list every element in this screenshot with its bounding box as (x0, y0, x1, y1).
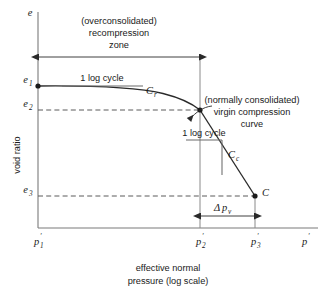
x-tick-p2-sub: 2 (202, 242, 206, 250)
zone-line3: zone (109, 40, 129, 50)
y-axis-symbol: e (28, 7, 33, 18)
y-tick-e2: e 2 (23, 98, 33, 112)
x-tick-p2-base: p (195, 236, 201, 247)
x-tick-p1-base: p (33, 236, 39, 247)
x-tick-p3-base: p (250, 236, 256, 247)
x-tick-labels: p 1 ′ p 2 ′ p 3 ′ p ′ (33, 233, 310, 250)
cr-label-sub: r (154, 91, 157, 99)
delta-pv-sub: v (228, 208, 232, 216)
virgin-curve-caption: (normally consolidated) virgin compressi… (205, 95, 300, 129)
e1-point-marker (35, 83, 40, 88)
cc-slope-construction (186, 140, 222, 175)
cr-log-cycle-label: 1 log cycle (80, 73, 123, 83)
vertical-reference-lines (200, 54, 255, 228)
x-tick-p3-prime: ′ (257, 233, 259, 241)
cc-labels: 1 log cycle C c (182, 128, 240, 163)
virgin-line2: virgin compression (214, 107, 291, 117)
x-tick-p3: p 3 ′ (250, 233, 261, 250)
x-tick-p3-sub: 3 (256, 242, 261, 250)
cr-label-base: C (146, 85, 154, 96)
zone-line1: (overconsolidated) (81, 16, 157, 26)
x-axis-symbol-base: p (301, 236, 307, 247)
point-c-marker (252, 193, 257, 198)
cc-label-base: C (228, 149, 236, 160)
recompression-curve (38, 86, 200, 110)
virgin-line1: (normally consolidated) (205, 95, 300, 105)
delta-pv-label: Δ p v (213, 202, 232, 216)
recompression-zone-caption: (overconsolidated) recompression zone (81, 16, 157, 50)
x-tick-p2: p 2 ′ (195, 233, 206, 250)
virgin-line3: curve (241, 119, 263, 129)
delta-pv-base: p (221, 202, 227, 213)
y-tick-e3-base: e (23, 184, 28, 195)
x-tick-p1-sub: 1 (40, 242, 44, 250)
y-tick-e1-base: e (23, 74, 28, 85)
zone-line2: recompression (89, 28, 149, 38)
y-tick-e2-sub: 2 (29, 104, 33, 112)
x-axis-label-line2: pressure (log scale) (128, 276, 209, 286)
y-tick-e1-sub: 1 (29, 80, 33, 88)
consolidation-curve-figure: e void ratio e 1 e 2 e 3 p 1 ′ (0, 0, 331, 297)
x-tick-p2-prime: ′ (202, 233, 204, 241)
cc-log-cycle-label: 1 log cycle (182, 128, 225, 138)
y-tick-e2-base: e (23, 98, 28, 109)
x-axis-label-line1: effective normal (136, 263, 201, 273)
point-c-label: C (262, 187, 270, 198)
x-axis-caption: effective normal pressure (log scale) (128, 263, 209, 286)
y-tick-e1: e 1 (23, 74, 32, 88)
x-tick-p1-prime: ′ (40, 233, 42, 241)
delta-pv-symbol: Δ (213, 202, 220, 213)
y-axis-label: void ratio (12, 136, 22, 173)
x-axis-symbol-p-prime: p ′ (301, 233, 310, 247)
x-tick-p1: p 1 ′ (33, 233, 44, 250)
y-tick-e3: e 3 (23, 184, 33, 198)
y-tick-e3-sub: 3 (28, 190, 33, 198)
x-axis-symbol-prime: ′ (308, 233, 310, 241)
y-tick-labels: e 1 e 2 e 3 (23, 74, 33, 198)
cc-label-sub: c (236, 155, 240, 163)
